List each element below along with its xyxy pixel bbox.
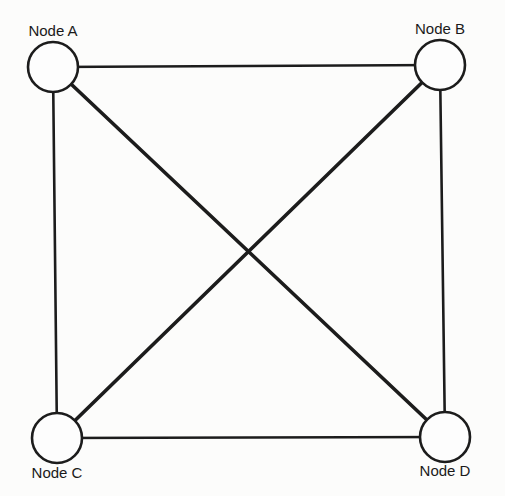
edge-b-c [57, 65, 440, 438]
edge-c-d [57, 437, 445, 438]
network-diagram: Node ANode BNode CNode D [0, 0, 505, 496]
edge-b-d [440, 65, 445, 437]
node-label: Node C [32, 464, 83, 481]
node-label: Node D [420, 462, 471, 479]
node-label: Node A [28, 22, 77, 39]
node-label: Node B [415, 20, 465, 37]
node-d: Node D [420, 412, 471, 479]
edges-group [53, 65, 445, 438]
node-b: Node B [415, 20, 465, 90]
node-circle-icon [28, 42, 78, 92]
edge-a-b [53, 65, 440, 67]
node-circle-icon [420, 412, 470, 462]
node-a: Node A [28, 22, 78, 92]
node-circle-icon [32, 413, 82, 463]
node-c: Node C [32, 413, 83, 481]
edge-a-c [53, 67, 57, 438]
node-circle-icon [415, 40, 465, 90]
